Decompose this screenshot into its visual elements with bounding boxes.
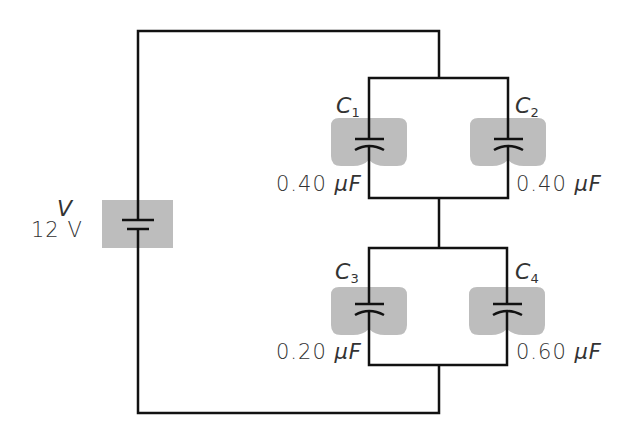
c4-name-label: C4 [515, 259, 539, 286]
c4-value-label: 0.60 μF [516, 340, 602, 364]
c2-value-label: 0.40 μF [516, 172, 602, 196]
c3-value-label: 0.20 μF [276, 340, 362, 364]
c2-name-label: C2 [515, 93, 539, 120]
source-voltage-label: 12 V [31, 218, 83, 242]
c1-name-label: C1 [336, 93, 360, 120]
c1-value-label: 0.40 μF [276, 172, 362, 196]
circuit-diagram [0, 0, 629, 436]
c3-name-label: C3 [335, 259, 359, 286]
